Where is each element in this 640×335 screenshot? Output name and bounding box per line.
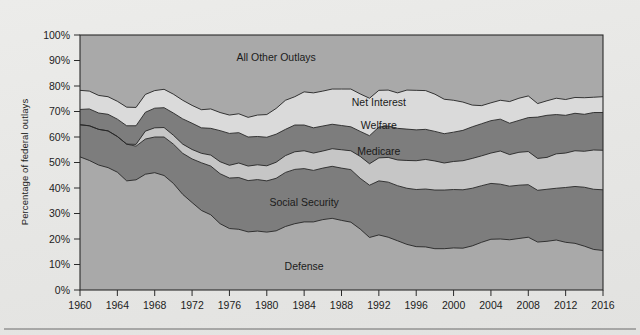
x-tick-label: 1960 [68, 299, 92, 311]
series-label-all-other-outlays: All Other Outlays [236, 51, 315, 63]
y-tick-label: 30% [49, 207, 70, 219]
stacked-area-chart: DefenseSocial SecurityMedicareWelfareNet… [0, 0, 640, 335]
series-label-defense: Defense [285, 260, 324, 272]
y-tick-label: 90% [49, 54, 70, 66]
x-tick-label: 1980 [255, 299, 279, 311]
y-tick-label: 20% [49, 233, 70, 245]
x-tick-label: 1988 [330, 299, 354, 311]
series-label-medicare: Medicare [357, 145, 400, 157]
x-tick-label: 1984 [292, 299, 316, 311]
y-tick-label: 80% [49, 80, 70, 92]
x-tick-label: 2004 [479, 299, 503, 311]
x-tick-label: 2000 [442, 299, 466, 311]
x-axis-group: 1960196419681972197619801984198819921996… [68, 290, 615, 311]
series-label-net-interest: Net Interest [352, 96, 406, 108]
y-tick-label: 60% [49, 131, 70, 143]
x-tick-label: 2016 [591, 299, 615, 311]
y-axis-group: 0%10%20%30%40%50%60%70%80%90%100% [43, 29, 80, 296]
x-tick-label: 1992 [367, 299, 391, 311]
y-axis-title: Percentage of federal outlays [19, 99, 30, 226]
figure-container: DefenseSocial SecurityMedicareWelfareNet… [0, 0, 640, 335]
x-tick-label: 1996 [405, 299, 429, 311]
x-tick-label: 2012 [554, 299, 578, 311]
y-tick-label: 10% [49, 258, 70, 270]
x-tick-label: 1972 [180, 299, 204, 311]
y-tick-label: 70% [49, 105, 70, 117]
series-label-welfare: Welfare [361, 119, 397, 131]
x-tick-label: 1968 [143, 299, 167, 311]
y-tick-label: 50% [49, 156, 70, 168]
area-bands-group [80, 35, 603, 290]
y-tick-label: 100% [43, 29, 70, 41]
x-tick-label: 2008 [517, 299, 541, 311]
y-tick-label: 40% [49, 182, 70, 194]
series-label-social-security: Social Security [269, 196, 339, 208]
y-tick-label: 0% [55, 284, 70, 296]
x-tick-label: 1976 [218, 299, 242, 311]
x-tick-label: 1964 [106, 299, 130, 311]
